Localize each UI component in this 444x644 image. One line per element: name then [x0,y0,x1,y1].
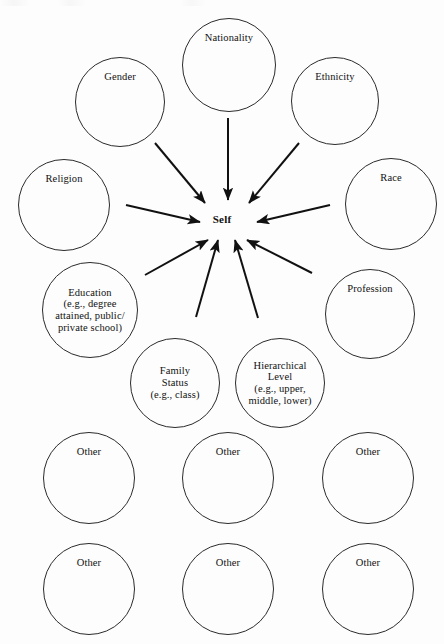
node-other-6[interactable]: Other [322,543,414,635]
center-node-self: Self [213,213,232,225]
node-label-other-1: Other [73,433,105,458]
node-label-gender: Gender [100,58,140,83]
node-label-nationality: Nationality [201,19,257,44]
arrow-family-status-to-self [196,240,218,317]
arrow-religion-to-self [126,205,200,222]
node-race[interactable]: Race [345,158,437,250]
arrow-profession-to-self [247,240,312,273]
node-hierarchical-level[interactable]: Hierarchical Level (e.g., upper, middle,… [235,338,325,428]
node-other-3[interactable]: Other [322,432,414,524]
node-religion[interactable]: Religion [18,159,110,251]
node-label-race: Race [376,159,405,184]
node-label-education: Education (e.g., degree attained, public… [51,287,128,334]
arrow-gender-to-self [155,143,205,203]
node-family-status[interactable]: Family Status (e.g., class) [130,338,220,428]
node-label-other-4: Other [73,544,105,569]
arrow-ethnicity-to-self [249,143,299,203]
node-label-family-status: Family Status (e.g., class) [146,365,203,400]
node-label-other-3: Other [352,433,384,458]
node-label-other-6: Other [352,544,384,569]
node-label-ethnicity: Ethnicity [311,58,358,83]
node-other-1[interactable]: Other [43,432,135,524]
self-identity-diagram: NationalityGenderEthnicityReligionRaceEd… [0,0,444,644]
arrow-race-to-self [257,205,330,222]
arrow-hierarchical-to-self [235,240,258,318]
node-label-other-2: Other [212,433,244,458]
node-other-2[interactable]: Other [182,432,274,524]
node-nationality[interactable]: Nationality [182,18,276,112]
node-profession[interactable]: Profession [325,269,415,359]
node-label-other-5: Other [212,544,244,569]
arrow-education-to-self [145,240,208,275]
node-other-4[interactable]: Other [43,543,135,635]
node-label-profession: Profession [343,270,396,295]
node-education[interactable]: Education (e.g., degree attained, public… [42,262,138,358]
node-label-religion: Religion [42,160,87,185]
node-label-hierarchical-level: Hierarchical Level (e.g., upper, middle,… [244,360,315,407]
node-ethnicity[interactable]: Ethnicity [291,57,379,145]
node-gender[interactable]: Gender [75,57,165,147]
node-other-5[interactable]: Other [182,543,274,635]
